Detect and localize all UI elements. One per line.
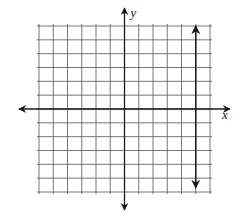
y-axis-label: y	[129, 5, 137, 20]
coordinate-plane: x y	[0, 0, 237, 215]
x-axis-label: x	[221, 107, 228, 122]
